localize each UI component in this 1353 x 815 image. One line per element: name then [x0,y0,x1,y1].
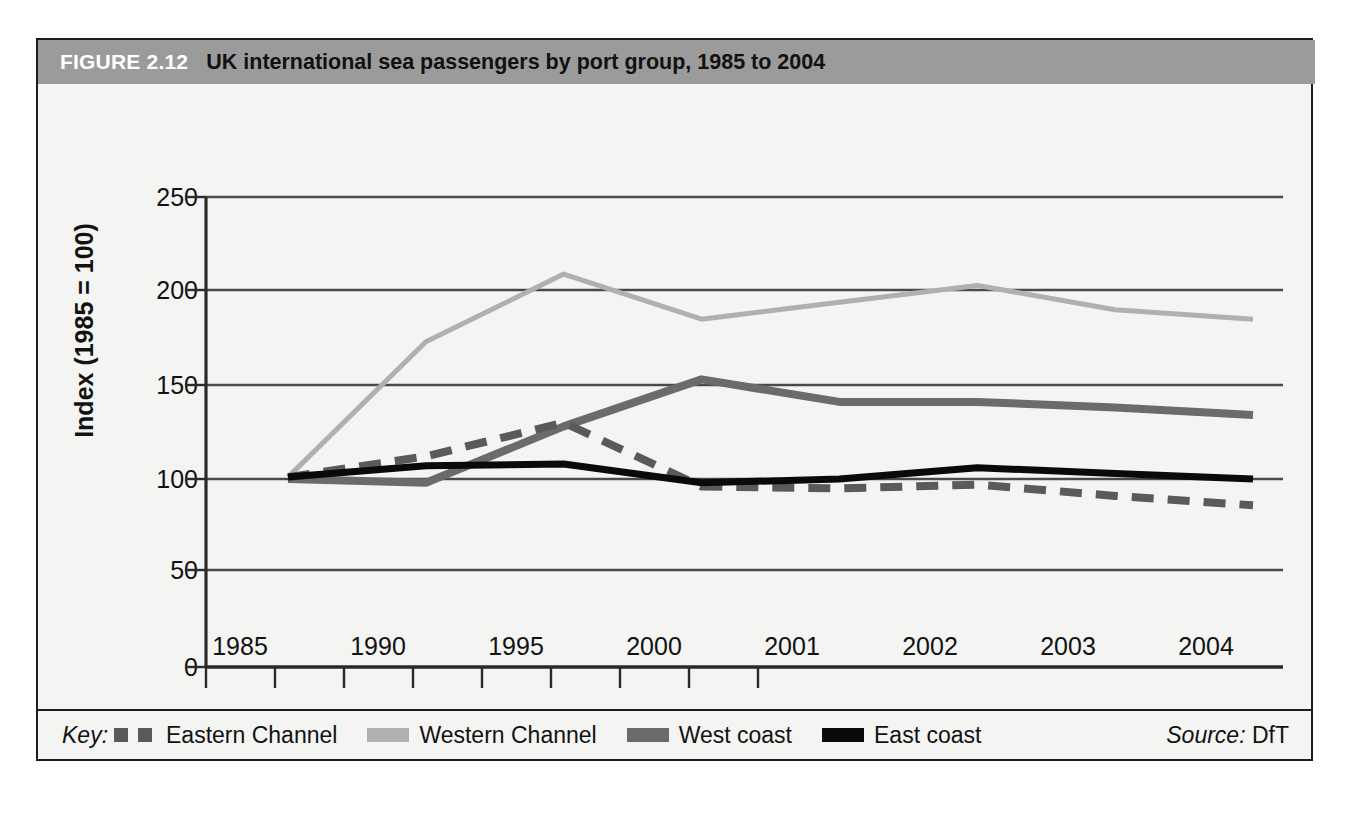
legend-label-eastern-channel: Eastern Channel [166,722,337,749]
legend-swatch-dashed-icon [114,728,156,742]
x-tick-label-2003: 2003 [1040,632,1096,661]
legend-label-west-coast: West coast [679,722,792,749]
legend-bar: Key: Eastern Channel Western Channel Wes… [38,709,1311,759]
figure-panel: FIGURE 2.12 UK international sea passeng… [36,38,1313,761]
x-tick-label-2000: 2000 [626,632,682,661]
legend-swatch-gray-line-icon [627,728,669,742]
legend-label-east-coast: East coast [874,722,981,749]
x-axis-tick-labels: 1985 1990 1995 2000 2001 2002 2003 2004 [38,632,1311,672]
x-tick-label-1990: 1990 [350,632,406,661]
legend-swatch-thin-line-icon [367,728,409,742]
y-axis-ticks [186,197,206,667]
figure-number-label: FIGURE 2.12 [60,50,188,74]
legend-entry-east-coast: East coast [822,722,981,749]
legend-entry-west-coast: West coast [627,722,792,749]
plot-area [38,84,1311,709]
series-line-western-channel [288,274,1253,477]
legend-key-label: Key: [62,722,108,749]
legend-swatch-black-line-icon [822,728,864,742]
chart-stage: Index (1985 = 100) 250 200 150 100 50 0 [38,84,1311,709]
x-tick-label-1995: 1995 [488,632,544,661]
figure-root: FIGURE 2.12 UK international sea passeng… [0,0,1353,815]
figure-title-text: UK international sea passengers by port … [206,50,825,75]
legend-entry-western-channel: Western Channel [367,722,596,749]
source-word: Source: [1166,722,1245,748]
x-tick-label-2002: 2002 [902,632,958,661]
legend-label-western-channel: Western Channel [419,722,596,749]
source-value: DfT [1252,722,1289,748]
legend-entry-eastern-channel: Eastern Channel [114,722,337,749]
x-tick-label-1985: 1985 [212,632,268,661]
x-tick-label-2004: 2004 [1178,632,1234,661]
figure-title-bar: FIGURE 2.12 UK international sea passeng… [38,40,1315,84]
source-note: Source: DfT [1166,722,1289,749]
x-tick-label-2001: 2001 [764,632,820,661]
